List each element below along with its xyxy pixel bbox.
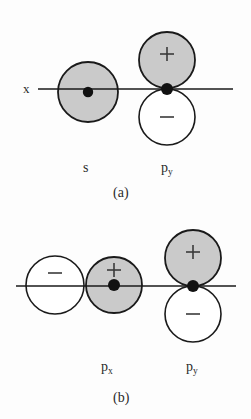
orbital-label-py-a: py — [161, 161, 173, 175]
panel-b-group — [16, 230, 236, 342]
orbital-label-px-b: px — [101, 360, 113, 374]
orbital-label-py-b-base: p — [186, 359, 193, 374]
orbital-label-px-b-sub: x — [108, 366, 113, 376]
orbital-label-s-base: s — [83, 160, 88, 175]
panel-b-px-minus-lobe — [26, 256, 84, 314]
orbital-label-py-b: py — [186, 360, 198, 374]
panel-a-group — [38, 32, 233, 145]
panel-b-py-nucleus — [187, 280, 199, 292]
orbital-label-px-b-base: p — [101, 359, 108, 374]
panel-caption-b: (b) — [113, 391, 129, 405]
panel-a-py-nucleus — [161, 83, 173, 95]
orbital-label-py-a-sub: y — [168, 167, 173, 177]
x-axis-label: x — [23, 82, 30, 95]
orbital-label-py-b-sub: y — [193, 366, 198, 376]
orbital-figure: x s py (a) px py (b) — [0, 0, 251, 419]
panel-b-px-nucleus — [108, 279, 120, 291]
orbital-diagram-svg — [0, 0, 251, 419]
panel-a-s-nucleus — [83, 87, 93, 97]
orbital-label-s: s — [83, 161, 88, 175]
panel-caption-a: (a) — [113, 186, 129, 200]
orbital-label-py-a-base: p — [161, 160, 168, 175]
